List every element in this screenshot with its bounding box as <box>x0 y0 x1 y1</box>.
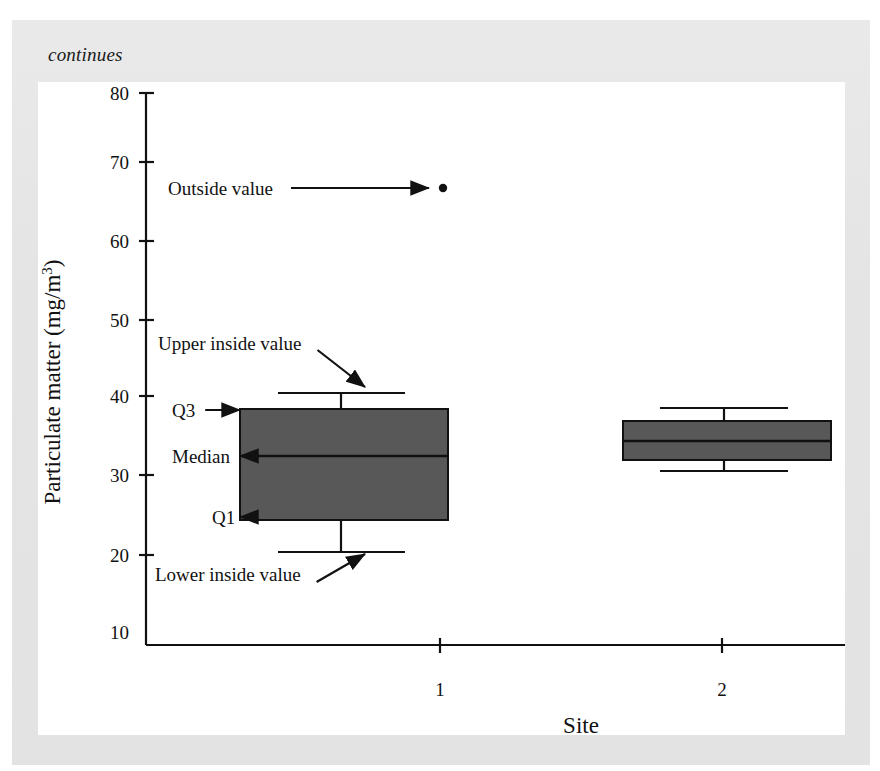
box-plot-site-2[interactable] <box>623 408 831 471</box>
box-plot-svg: 80 70 60 50 40 30 20 10 1 2 Site <box>38 82 845 735</box>
figure-panel: 80 70 60 50 40 30 20 10 1 2 Site <box>38 82 845 735</box>
annotation-outside-value: Outside value <box>168 178 429 199</box>
y-axis-title-suffix: ) <box>40 259 65 267</box>
x-tick-label-1: 1 <box>435 679 445 700</box>
annotation-q3: Q3 <box>172 400 240 421</box>
x-axis-tick-labels: 1 2 <box>435 679 727 700</box>
annotation-lower-inside-value: Lower inside value <box>155 554 365 585</box>
figure-page: continues 80 70 <box>0 0 880 771</box>
box-plot-site-1[interactable] <box>240 184 448 552</box>
x-tick-label-2: 2 <box>717 679 727 700</box>
annotation-label-q1: Q1 <box>212 507 235 528</box>
y-axis-tick-labels: 80 70 60 50 40 30 20 10 <box>110 83 129 643</box>
y-tick-label-70: 70 <box>110 152 129 173</box>
annotation-label-outside-value: Outside value <box>168 178 273 199</box>
y-axis-title-superscript: 3 <box>39 267 55 275</box>
outlier-point-site-1 <box>439 184 447 192</box>
y-tick-label-50: 50 <box>110 310 129 331</box>
annotation-arrow-upper-inside-value <box>318 350 366 387</box>
annotation-label-lower-inside-value: Lower inside value <box>155 564 301 585</box>
annotation-label-upper-inside-value: Upper inside value <box>158 333 302 354</box>
y-tick-label-80: 80 <box>110 83 129 104</box>
y-tick-label-30: 30 <box>110 465 129 486</box>
continues-note: continues <box>48 44 123 66</box>
y-axis-title-main: Particulate matter (mg/m <box>40 275 65 505</box>
y-tick-label-10: 10 <box>110 622 129 643</box>
axes-group <box>146 93 845 645</box>
annotation-arrow-lower-inside-value <box>317 554 365 582</box>
annotation-label-median: Median <box>172 446 231 467</box>
annotation-median: Median <box>172 446 241 467</box>
box-site-1 <box>240 409 448 520</box>
x-axis-title: Site <box>563 713 599 735</box>
y-tick-label-20: 20 <box>110 545 129 566</box>
y-tick-label-60: 60 <box>110 231 129 252</box>
y-axis-title-group: Particulate matter (mg/m3) <box>39 259 65 504</box>
y-axis-title: Particulate matter (mg/m3) <box>39 259 65 504</box>
y-tick-label-40: 40 <box>110 386 129 407</box>
annotation-label-q3: Q3 <box>172 400 195 421</box>
annotation-upper-inside-value: Upper inside value <box>158 333 365 387</box>
